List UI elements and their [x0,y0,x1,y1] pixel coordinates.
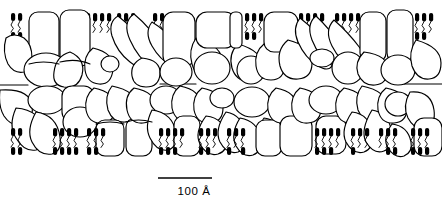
scale-bar-label: 100 Å [177,186,210,198]
membrane-illustration [0,0,442,206]
membrane-diagram: 100 Å [0,0,442,206]
upper-leaflet-proteins [4,10,441,87]
scale-bar-label-container: 100 Å [0,186,442,198]
lipid-group [415,13,433,40]
lipid-group [245,13,263,40]
inner-leaflet-proteins [0,86,442,157]
